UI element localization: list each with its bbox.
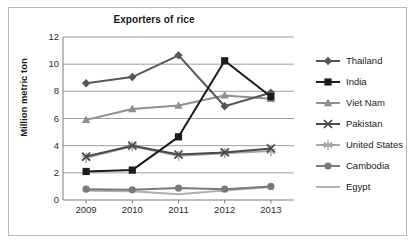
legend-marker-none-icon <box>315 180 341 194</box>
series-united-states <box>82 141 275 163</box>
y-tick-label: 10 <box>41 58 59 69</box>
data-point-marker <box>83 168 90 175</box>
y-tick-label: 4 <box>41 140 59 151</box>
x-tick-label: 2009 <box>66 204 106 215</box>
legend-label: Cambodia <box>346 160 389 171</box>
plot-area <box>63 37 294 200</box>
legend-marker-diamond-icon <box>315 54 341 68</box>
legend-label: Viet Nam <box>346 97 385 108</box>
legend-marker-star-icon <box>315 138 341 152</box>
data-point-marker <box>82 79 90 87</box>
y-tick-label: 8 <box>41 85 59 96</box>
legend-marker-x-icon <box>315 117 341 131</box>
chart-title: Exporters of rice <box>9 14 299 25</box>
chart-legend: ThailandIndiaViet NamPakistanUnited Stat… <box>315 50 417 197</box>
legend-item-india[interactable]: India <box>315 71 417 92</box>
series-line <box>86 55 271 106</box>
legend-label: Pakistan <box>346 118 382 129</box>
data-point-marker <box>267 183 274 190</box>
x-tick-label: 2012 <box>205 204 245 215</box>
legend-label: India <box>346 76 367 87</box>
data-point-marker <box>221 186 228 193</box>
data-point-marker <box>129 167 136 174</box>
legend-marker-triangle-icon <box>315 96 341 110</box>
legend-marker-square-icon <box>315 75 341 89</box>
legend-item-egypt[interactable]: Egypt <box>315 176 417 197</box>
legend-item-cambodia[interactable]: Cambodia <box>315 155 417 176</box>
y-axis-tick-labels: 024681012 <box>39 37 59 200</box>
legend-item-thailand[interactable]: Thailand <box>315 50 417 71</box>
data-point-marker <box>324 162 331 169</box>
legend-marker-circle-icon <box>315 159 341 173</box>
x-tick-label: 2013 <box>251 204 291 215</box>
data-point-marker <box>221 57 228 64</box>
data-point-marker <box>175 133 182 140</box>
legend-item-pakistan[interactable]: Pakistan <box>315 113 417 134</box>
data-point-marker <box>128 73 136 81</box>
legend-label: United States <box>346 139 403 150</box>
data-point-marker <box>267 93 274 100</box>
x-tick-label: 2010 <box>112 204 152 215</box>
chart-container: Exporters of rice Million metric ton 024… <box>8 7 407 236</box>
x-axis-tick-labels: 20092010201120122013 <box>63 204 294 220</box>
legend-item-viet-nam[interactable]: Viet Nam <box>315 92 417 113</box>
x-tick-label: 2011 <box>159 204 199 215</box>
legend-label: Egypt <box>346 181 370 192</box>
y-tick-label: 0 <box>41 194 59 205</box>
chart-svg <box>63 37 294 200</box>
legend-label: Thailand <box>346 55 382 66</box>
y-tick-label: 12 <box>41 31 59 42</box>
data-point-marker <box>324 78 331 85</box>
data-point-marker <box>324 56 332 64</box>
legend-item-united-states[interactable]: United States <box>315 134 417 155</box>
y-tick-label: 2 <box>41 167 59 178</box>
y-axis-title: Million metric ton <box>18 38 29 158</box>
y-tick-label: 6 <box>41 113 59 124</box>
data-point-marker <box>175 184 182 191</box>
data-point-marker <box>129 186 136 193</box>
data-point-marker <box>83 186 90 193</box>
